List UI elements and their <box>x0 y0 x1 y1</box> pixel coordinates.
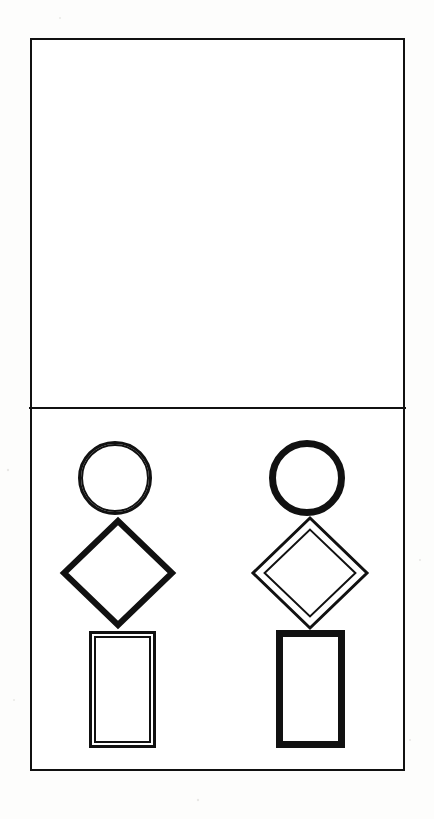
paper-speck <box>409 739 411 741</box>
paper-speck <box>13 699 15 701</box>
outer-rectangle-border <box>31 39 404 770</box>
drawing-canvas <box>0 0 434 819</box>
geometric-figure-drawing <box>0 0 434 819</box>
paper-speck <box>197 799 199 801</box>
paper-speck <box>419 559 421 561</box>
paper-speck <box>7 469 9 471</box>
paper-speck <box>59 17 61 19</box>
